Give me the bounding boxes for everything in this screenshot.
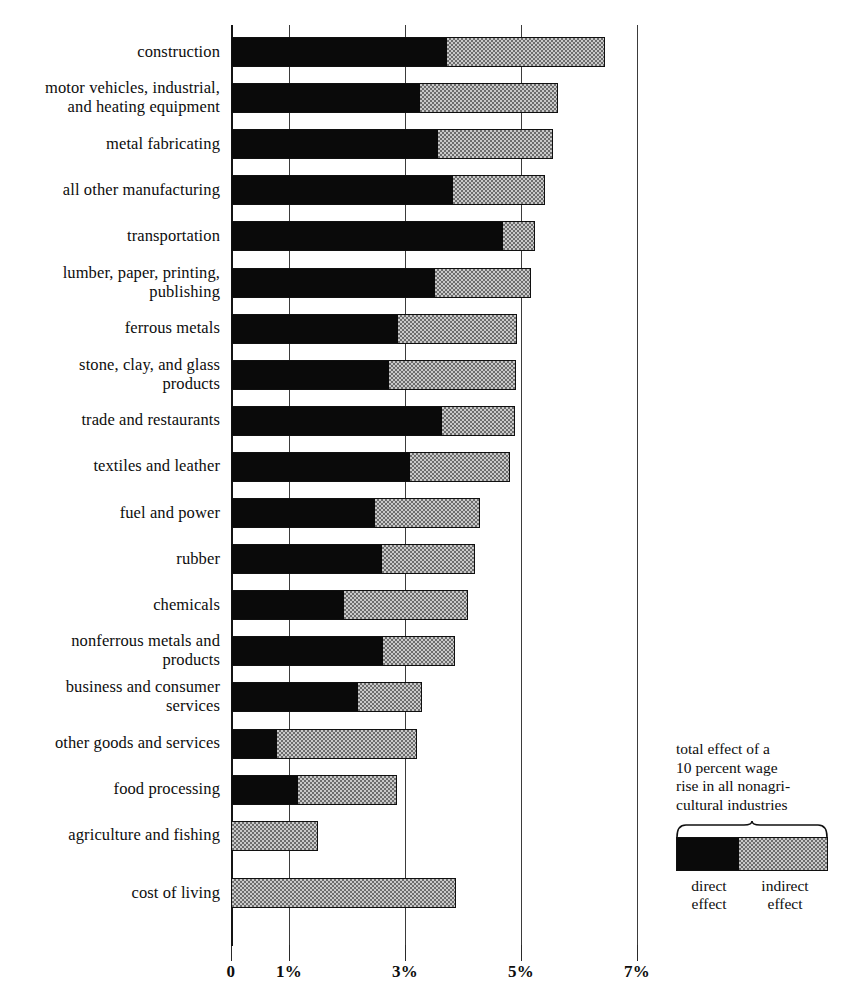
legend-swatch-indirect: [739, 837, 828, 871]
tick-label: 3%: [392, 962, 418, 982]
stacked-bar-chart: constructionmotor vehicles, industrial, …: [0, 0, 858, 993]
tick-mark: [289, 945, 290, 961]
legend-caption: total effect of a 10 percent wage rise i…: [676, 740, 848, 814]
tick-label: 1%: [276, 962, 302, 982]
tick-label: 7%: [624, 962, 650, 982]
legend-swatches: [676, 837, 828, 871]
legend-label-indirect: indirect effect: [742, 877, 828, 913]
tick-mark: [405, 945, 406, 961]
tick-mark: [637, 945, 638, 961]
legend-swatch-direct: [676, 837, 739, 871]
tick-mark: [521, 945, 522, 961]
tick-label: 5%: [508, 962, 534, 982]
legend: total effect of a 10 percent wage rise i…: [676, 740, 848, 913]
tick-mark: [231, 945, 232, 961]
legend-brace-icon: [676, 821, 828, 837]
tick-label: 0: [227, 962, 236, 982]
axis-baseline: [231, 945, 233, 946]
legend-label-direct: direct effect: [676, 877, 742, 913]
legend-keys: direct effect indirect effect: [676, 877, 828, 913]
